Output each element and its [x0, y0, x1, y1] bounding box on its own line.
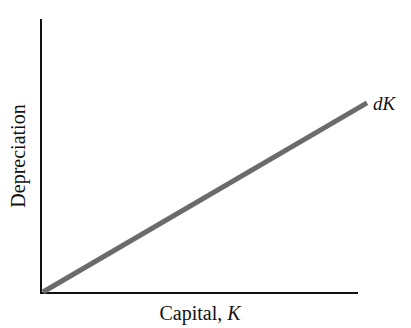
series-label-dk: dK — [373, 93, 397, 114]
y-axis-label: Depreciation — [7, 104, 30, 207]
x-axis-label: Capital, K — [159, 302, 242, 325]
depreciation-line — [43, 103, 367, 292]
depreciation-chart: dK Depreciation Capital, K — [0, 0, 411, 328]
